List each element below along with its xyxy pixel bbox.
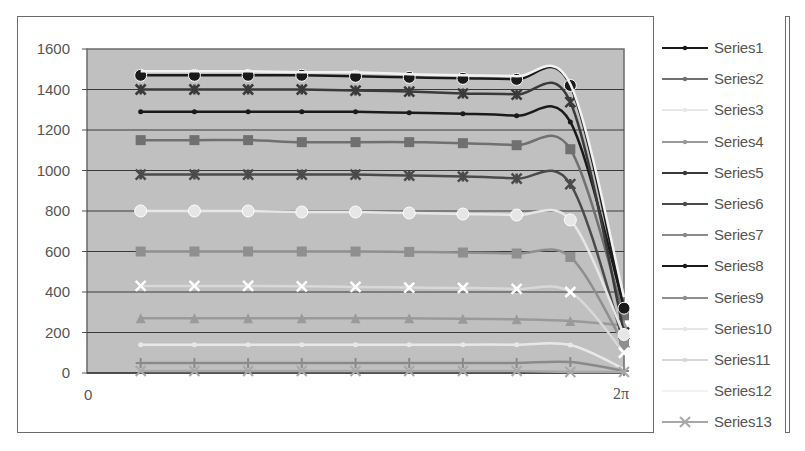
legend-label: Series8 [714,256,763,276]
legend-item: Series8 [662,256,787,276]
legend-label: Series7 [714,225,763,245]
legend-item: Series11 [662,350,787,370]
legend-swatch-icon [662,256,708,276]
legend-item: Series4 [662,132,787,152]
legend-item: Series12 [662,381,787,401]
legend-swatch-icon [662,225,708,245]
legend-label: Series5 [714,163,763,183]
legend-swatch-icon [662,319,708,339]
legend-label: Series12 [714,381,772,401]
legend-swatch-icon [662,38,708,58]
legend-swatch-icon [662,350,708,370]
legend-swatch-icon [662,69,708,89]
legend-swatch-icon [662,381,708,401]
legend-label: Series3 [714,100,763,120]
legend: Series1Series2Series3Series4Series5Serie… [653,16,786,433]
legend-swatch-icon [662,100,708,120]
legend-swatch-icon [662,163,708,183]
legend-swatch-icon [662,132,708,152]
legend-swatch-icon [662,194,708,214]
legend-label: Series13 [714,412,772,432]
legend-label: Series10 [714,319,772,339]
legend-item: Series5 [662,163,787,183]
legend-item: Series6 [662,194,787,214]
legend-swatch-icon [662,288,708,308]
legend-item: Series7 [662,225,787,245]
legend-item: Series3 [662,100,787,120]
legend-label: Series11 [714,350,771,370]
legend-label: Series4 [714,132,763,152]
legend-label: Series6 [714,194,763,214]
legend-label: Series1 [714,38,763,58]
legend-swatch-icon [662,412,708,432]
legend-item: Series13 [662,412,787,432]
legend-item: Series2 [662,69,787,89]
legend-label: Series2 [714,69,763,89]
legend-item: Series9 [662,288,787,308]
legend-frame [785,16,790,433]
legend-item: Series10 [662,319,787,339]
legend-item: Series1 [662,38,787,58]
legend-label: Series9 [714,288,763,308]
